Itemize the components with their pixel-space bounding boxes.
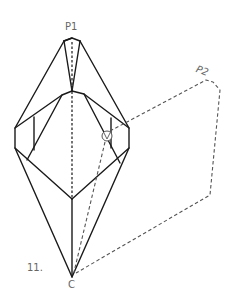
right-flap: [84, 94, 120, 163]
fold-marker-icon: [102, 131, 112, 141]
point-label-c: C: [68, 280, 75, 290]
motion-path-p2: [74, 80, 220, 273]
step-number: 11.: [27, 263, 43, 273]
fold-drawing: [0, 0, 237, 302]
point-label-p1: P1: [65, 22, 77, 32]
left-flap: [27, 95, 62, 160]
